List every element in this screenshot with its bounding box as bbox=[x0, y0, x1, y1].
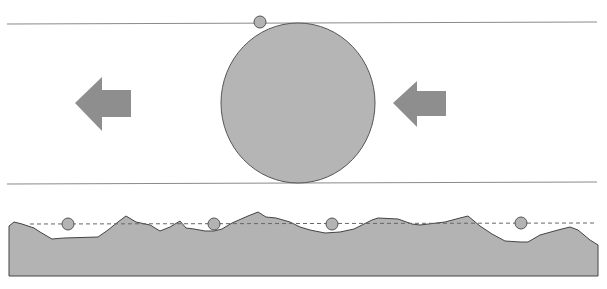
diagram-svg bbox=[0, 0, 607, 289]
right-arrow-icon bbox=[393, 81, 446, 127]
rough-surface-profile bbox=[9, 212, 598, 276]
small-sphere-top bbox=[254, 16, 266, 28]
large-sphere bbox=[221, 23, 375, 183]
left-arrow-icon bbox=[75, 77, 131, 131]
small-sphere-4 bbox=[515, 217, 527, 229]
small-sphere-2 bbox=[208, 218, 220, 230]
small-sphere-1 bbox=[62, 218, 74, 230]
mean-dashed-line bbox=[30, 223, 597, 224]
diagram-canvas bbox=[0, 0, 607, 289]
small-sphere-3 bbox=[326, 218, 338, 230]
